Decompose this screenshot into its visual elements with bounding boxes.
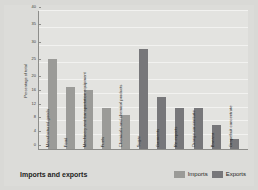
chart-title: Imports and exports [20, 171, 87, 178]
bar[interactable] [139, 49, 148, 149]
plot-area: 04812162025303540 Manufactured goodsFood… [38, 11, 248, 150]
y-axis-tick-label: 40 [32, 5, 39, 9]
chart-panel: Percentage of total 04812162025303540 Ma… [4, 5, 254, 186]
y-axis-tick-label: 16 [32, 88, 39, 92]
bar-category-label: Chemicals and chemical products [119, 84, 123, 147]
legend-swatch-imports [174, 171, 185, 178]
legend-item-exports: Exports [212, 171, 246, 178]
bar-category-label: Garments [156, 129, 160, 147]
y-axis-title: Percentage of total [24, 64, 28, 98]
bar-category-label: Sugar [137, 136, 141, 147]
y-axis-tick-label: 20 [32, 74, 39, 78]
bar-cell: Manufactured goods [43, 11, 61, 149]
legend-item-imports: Imports [174, 171, 208, 178]
bar-cell: Food [61, 11, 79, 149]
bar-category-label: Fuels [101, 137, 105, 147]
bar-category-label: Manufactured goods [46, 109, 50, 147]
bar-category-label: Grapefruit concentrate [229, 105, 233, 147]
legend-label-exports: Exports [226, 171, 246, 177]
bar-group: Manufactured goodsFoodMachinery and tran… [39, 11, 248, 149]
bar-cell: Fuels [98, 11, 116, 149]
bar-cell: Banana [207, 11, 225, 149]
bar-category-label: Re-exports [174, 127, 178, 147]
legend: Imports Exports [174, 171, 246, 178]
y-axis-tick-label: 25 [32, 57, 39, 61]
chart-screenshot: Percentage of total 04812162025303540 Ma… [0, 0, 258, 190]
legend-swatch-exports [212, 171, 223, 178]
y-axis-tick-label: 30 [32, 40, 39, 44]
legend-label-imports: Imports [188, 171, 208, 177]
bar-category-label: Food [64, 137, 68, 147]
bar-cell: Garments [153, 11, 171, 149]
bar-cell: Grapefruit concentrate [226, 11, 244, 149]
bar-category-label: Orange concentrate [192, 110, 196, 147]
bar-cell: Orange concentrate [189, 11, 207, 149]
bar-cell: Re-exports [171, 11, 189, 149]
bar-category-label: Banana [210, 133, 214, 147]
bar-cell: Chemicals and chemical products [116, 11, 134, 149]
bar-cell: Sugar [134, 11, 152, 149]
y-axis-tick-label: 35 [32, 22, 39, 26]
y-axis-tick-label: 12 [32, 102, 39, 106]
bar-category-label: Machinery and transportation equipment [82, 72, 86, 147]
chart-footer: Imports and exports Imports Exports [20, 168, 246, 180]
bar-cell: Machinery and transportation equipment [80, 11, 98, 149]
plot-wrapper: Percentage of total 04812162025303540 Ma… [18, 11, 248, 150]
